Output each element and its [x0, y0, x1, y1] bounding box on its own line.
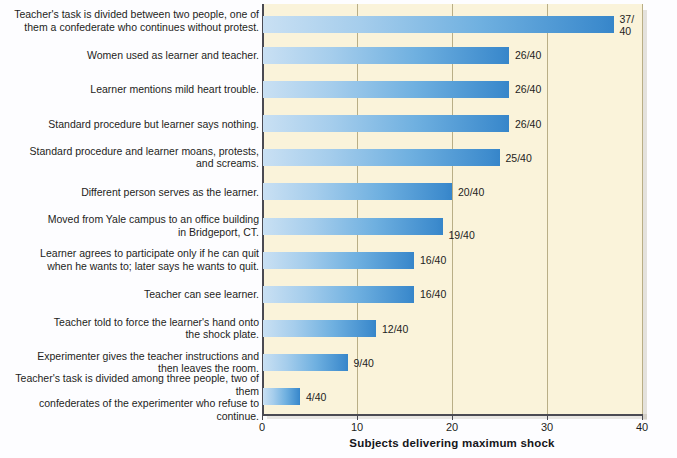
category-label: Moved from Yale campus to an office buil… — [7, 213, 259, 238]
x-tick-20 — [452, 414, 453, 420]
x-tick-label-30: 30 — [527, 421, 567, 433]
bar-value-label: 26/40 — [515, 118, 541, 130]
bar-container: 16/40 — [263, 286, 446, 303]
bar-row: Teacher's task is divided among three pe… — [0, 380, 677, 414]
bar-value-label: 26/40 — [515, 49, 541, 61]
bar-row: Teacher's task is divided between two pe… — [0, 4, 677, 38]
bar-value-label: 16/40 — [420, 288, 446, 300]
x-tick-40 — [642, 414, 643, 420]
category-label: Different person serves as the learner. — [7, 186, 259, 199]
bar[interactable] — [263, 320, 376, 337]
bar-container: 16/40 — [263, 252, 446, 269]
bar[interactable] — [263, 183, 452, 200]
bar[interactable] — [263, 252, 414, 269]
category-label: Teacher can see learner. — [7, 288, 259, 301]
bar-value-label: 9/40 — [354, 357, 374, 369]
bar-row: Women used as learner and teacher.26/40 — [0, 38, 677, 72]
category-label: Women used as learner and teacher. — [7, 49, 259, 62]
category-label: Teacher's task is divided between two pe… — [7, 8, 259, 33]
bar-value-label: 20/40 — [458, 186, 484, 198]
category-label: Teacher's task is divided among three pe… — [7, 372, 259, 422]
bar-row: Learner agrees to participate only if he… — [0, 243, 677, 277]
bar[interactable] — [263, 16, 614, 33]
category-label: Learner mentions mild heart trouble. — [7, 83, 259, 96]
x-tick-label-0: 0 — [242, 421, 282, 433]
category-label: Learner agrees to participate only if he… — [7, 248, 259, 273]
category-label: Standard procedure but learner says noth… — [7, 117, 259, 130]
bar-row: Standard procedure and learner moans, pr… — [0, 141, 677, 175]
x-tick-label-10: 10 — [337, 421, 377, 433]
x-tick-label-20: 20 — [432, 421, 472, 433]
bar[interactable] — [263, 149, 500, 166]
bar-container: 26/40 — [263, 81, 541, 98]
bar-value-label: 16/40 — [420, 254, 446, 266]
category-label: Teacher told to force the learner's hand… — [7, 316, 259, 341]
bar-value-label: 26/40 — [515, 83, 541, 95]
bar-row: Moved from Yale campus to an office buil… — [0, 209, 677, 243]
x-axis-title: Subjects delivering maximum shock — [262, 437, 642, 449]
bar[interactable] — [263, 115, 509, 132]
chart-figure: Teacher's task is divided between two pe… — [0, 0, 677, 458]
bar[interactable] — [263, 388, 300, 405]
category-label: Standard procedure and learner moans, pr… — [7, 145, 259, 170]
x-tick-30 — [547, 414, 548, 420]
bar-container: 20/40 — [263, 183, 484, 200]
bar-container: 26/40 — [263, 47, 541, 64]
bar-row: Teacher told to force the learner's hand… — [0, 312, 677, 346]
bar-container: 4/40 — [263, 388, 326, 405]
x-tick-10 — [357, 414, 358, 420]
bar-row: Standard procedure but learner says noth… — [0, 107, 677, 141]
bar-row: Learner mentions mild heart trouble.26/4… — [0, 72, 677, 106]
bar-value-label: 37/ 40 — [620, 13, 635, 37]
x-tick-label-40: 40 — [622, 421, 662, 433]
bar-container: 19/40 — [263, 218, 475, 235]
x-tick-0 — [262, 414, 263, 420]
bar[interactable] — [263, 286, 414, 303]
bar-container: 25/40 — [263, 149, 532, 166]
bar-container: 12/40 — [263, 320, 408, 337]
bar-value-label: 4/40 — [306, 391, 326, 403]
bar-row: Different person serves as the learner.2… — [0, 175, 677, 209]
bar[interactable] — [263, 81, 509, 98]
bar-container: 37/ 40 — [263, 13, 634, 37]
bar-container: 26/40 — [263, 115, 541, 132]
bar-row: Teacher can see learner.16/40 — [0, 277, 677, 311]
bar[interactable] — [263, 354, 348, 371]
bar-value-label: 12/40 — [382, 323, 408, 335]
bar[interactable] — [263, 218, 443, 235]
bar-value-label: 25/40 — [506, 152, 532, 164]
bar-container: 9/40 — [263, 354, 374, 371]
bar-value-label: 19/40 — [449, 229, 475, 241]
bar[interactable] — [263, 47, 509, 64]
